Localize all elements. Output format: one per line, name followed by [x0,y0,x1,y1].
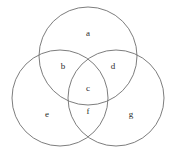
region-label-b: b [61,62,66,71]
region-label-f: f [87,107,90,116]
region-label-d: d [111,62,116,71]
region-label-e: e [45,110,49,119]
region-label-a: a [86,29,90,38]
venn-circles-svg [0,0,175,154]
venn-diagram-figure: abdcefg [0,0,175,154]
region-label-c: c [86,84,90,93]
right-circle [68,50,164,146]
region-label-g: g [129,110,134,119]
